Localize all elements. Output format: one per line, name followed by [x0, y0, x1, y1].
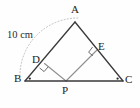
label-point-p: P	[62, 85, 68, 96]
label-vertex-b: B	[14, 73, 21, 84]
label-vertex-a: A	[71, 4, 79, 15]
geometry-figure: A B C D E P 10 cm	[0, 0, 140, 108]
right-angle-mark-d	[40, 67, 49, 72]
label-point-d: D	[32, 54, 40, 65]
vertex-dot-c	[116, 77, 118, 79]
geometry-canvas	[0, 0, 140, 108]
label-measure-ab: 10 cm	[7, 30, 33, 41]
vertex-dot-b	[29, 77, 31, 79]
measurement-arc-ab	[20, 18, 78, 79]
segment-perpendicular-pd	[45, 64, 67, 82]
label-vertex-c: C	[125, 74, 132, 85]
label-point-e: E	[98, 41, 105, 52]
